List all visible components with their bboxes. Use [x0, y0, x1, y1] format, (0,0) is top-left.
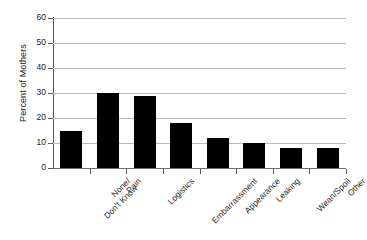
bar — [97, 93, 119, 168]
plot-area — [53, 18, 346, 168]
y-axis-tick-label: 60 — [24, 13, 46, 22]
y-axis-tick-labels: 0102030405060 — [0, 0, 46, 168]
x-axis-tick — [273, 169, 274, 174]
y-axis-tick — [48, 118, 53, 119]
gridline — [53, 43, 346, 44]
y-axis-tick — [48, 93, 53, 94]
bar — [280, 148, 302, 168]
x-axis-tick — [346, 169, 347, 174]
gridline — [53, 68, 346, 69]
x-axis-tick — [90, 169, 91, 174]
y-axis-tick-label: 10 — [24, 138, 46, 147]
bar — [170, 123, 192, 168]
x-axis-category-label: Logistics — [165, 176, 196, 207]
y-axis-tick-label: 30 — [24, 88, 46, 97]
y-axis-tick — [48, 143, 53, 144]
bar — [317, 148, 339, 168]
y-axis-tick — [48, 168, 53, 169]
x-axis-tick — [126, 169, 127, 174]
gridline — [53, 18, 346, 19]
y-axis-tick — [48, 68, 53, 69]
bar — [60, 131, 82, 169]
x-axis-tick — [309, 169, 310, 174]
y-axis-tick — [48, 43, 53, 44]
x-axis-tick — [200, 169, 201, 174]
x-axis-tick — [236, 169, 237, 174]
bar — [243, 143, 265, 168]
y-axis-tick-label: 40 — [24, 63, 46, 72]
x-axis-category-label: Wean/Spoil — [315, 176, 353, 214]
y-axis-tick-label: 50 — [24, 38, 46, 47]
bar — [134, 96, 156, 169]
y-axis-tick-label: 0 — [24, 163, 46, 172]
bar — [207, 138, 229, 168]
y-axis-tick — [48, 18, 53, 19]
x-axis-tick — [163, 169, 164, 174]
y-axis-tick-label: 20 — [24, 113, 46, 122]
